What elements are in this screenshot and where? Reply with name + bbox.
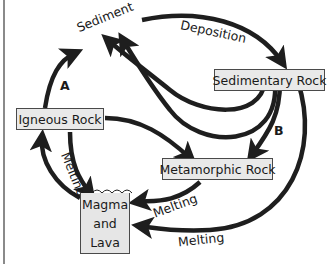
magma-line-2: and [93, 214, 117, 233]
node-magma-and-lava: Magma and Lava [80, 193, 130, 254]
magma-line-3: Lava [90, 233, 120, 252]
node-metamorphic-rock: Metamorphic Rock [162, 158, 273, 180]
node-sedimentary-rock: Sedimentary Rock [214, 69, 325, 91]
label-a: A [60, 78, 70, 93]
arrows-layer [0, 0, 335, 264]
label-b: B [274, 123, 284, 138]
node-igneous-rock: Igneous Rock [16, 108, 104, 130]
magma-line-1: Magma [82, 195, 128, 214]
arrow-igneous-to-metamorphic [105, 118, 190, 158]
